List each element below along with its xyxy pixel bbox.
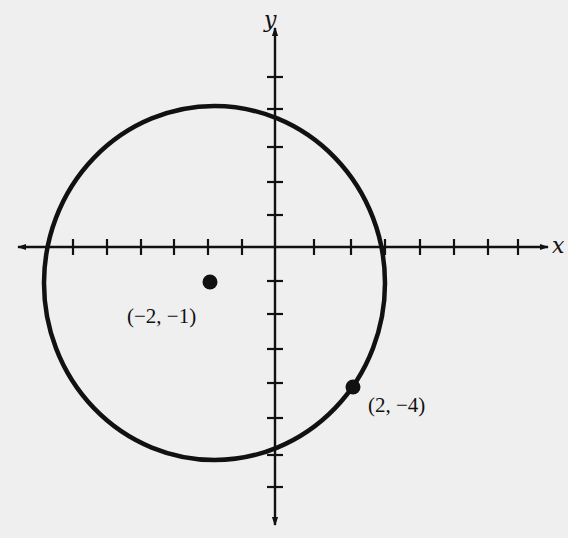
point-label: (−2, −1) bbox=[127, 304, 196, 328]
point-label: (2, −4) bbox=[368, 393, 425, 417]
x-axis-label: x bbox=[552, 233, 565, 258]
coordinate-plane: (−2, −1)(2, −4) x y bbox=[0, 0, 568, 538]
point-marker bbox=[346, 380, 361, 395]
point-marker bbox=[203, 275, 218, 290]
y-axis-label: y bbox=[263, 7, 277, 32]
circle-graph-figure: (−2, −1)(2, −4) x y bbox=[0, 0, 568, 538]
